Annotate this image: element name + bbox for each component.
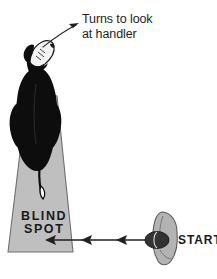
annotation-line-2: at handler: [82, 27, 137, 42]
blind-spot-diagram: Turns to look at handler BLIND SPOT STAR…: [0, 0, 217, 279]
handler-marker: [145, 212, 177, 265]
turn-arrow-head: [69, 23, 79, 28]
blind-spot-label-line2: SPOT: [24, 222, 64, 236]
start-dog-marker: [145, 232, 169, 249]
turn-annotation-arrow: [43, 23, 79, 47]
blind-spot-label-line1: BLIND: [21, 209, 67, 223]
turn-arrow-curve: [43, 25, 76, 47]
start-label: START: [178, 233, 217, 247]
annotation-line-1: Turns to look: [82, 12, 153, 27]
